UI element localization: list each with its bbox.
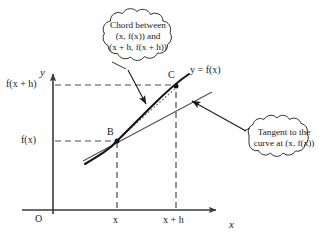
chord-callout-line-1: Chord between xyxy=(96,20,180,31)
chord-callout-line-2: (x, f(x)) and xyxy=(96,31,180,42)
chord-callout-line-3: (x + h, f(x + h)) xyxy=(96,42,180,53)
y-value-f-x-plus-h: f(x + h) xyxy=(6,78,37,90)
tangent-callout-line-2: curve at (x, f(x)) xyxy=(245,138,323,149)
point-b-marker xyxy=(115,139,120,144)
origin-label: O xyxy=(35,213,42,225)
y-axis-label: y xyxy=(40,66,45,79)
y-value-f-x: f(x) xyxy=(21,134,36,146)
tangent-callout-text: Tangent to the curve at (x, f(x)) xyxy=(245,127,323,149)
x-tick-label-x-plus-h: x + h xyxy=(163,214,184,226)
curve-label: y = f(x) xyxy=(190,64,221,76)
tangent-line xyxy=(83,92,212,161)
chord-callout-text: Chord between (x, f(x)) and (x + h, f(x … xyxy=(96,20,180,53)
derivative-diagram: y x O f(x + h) f(x) x x + h B C y = f(x)… xyxy=(0,0,328,239)
tangent-callout-arrow xyxy=(192,101,246,131)
x-axis-label: x xyxy=(229,218,234,231)
point-label-c: C xyxy=(168,69,175,81)
tangent-callout-line-1: Tangent to the xyxy=(245,127,323,138)
x-tick-label-x: x xyxy=(113,214,118,226)
chord-cloud-tail xyxy=(112,62,126,69)
chord-callout-arrow xyxy=(128,70,146,104)
point-label-b: B xyxy=(107,126,114,138)
point-c-marker xyxy=(174,84,179,89)
